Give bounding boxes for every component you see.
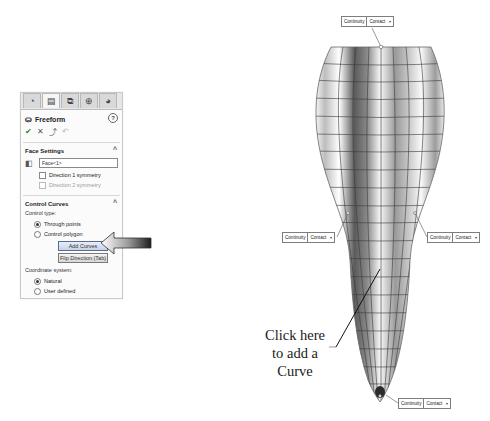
panel-actions: ✔ ✕ ⤴ ↶: [21, 126, 122, 137]
freeform-feature-icon: ⛀: [25, 115, 32, 124]
callout-left[interactable]: Continuity Contact ▾: [282, 232, 335, 243]
tab-dimxpert-manager[interactable]: ⊕: [80, 93, 98, 108]
radio-unselected[interactable]: [34, 231, 41, 238]
natural-radio[interactable]: Natural: [21, 276, 122, 286]
pushpin-icon[interactable]: ⤴: [49, 126, 57, 137]
annotation-line: to add a: [258, 344, 332, 362]
direction1-symmetry-checkbox[interactable]: Direction 1 symmetry: [21, 170, 122, 180]
collapse-caret-icon[interactable]: ^: [113, 199, 117, 206]
continuity-value: Contact: [426, 399, 442, 408]
face-selection-row: ◧ Face<1>: [21, 156, 122, 170]
radio-unselected[interactable]: [34, 288, 41, 295]
annotation-line: Curve: [258, 362, 332, 380]
continuity-label: Continuity: [399, 399, 424, 408]
continuity-value: Contact: [455, 233, 471, 242]
radio-label: Control polygon: [44, 231, 83, 237]
continuity-dropdown[interactable]: Contact ▾: [367, 17, 393, 26]
continuity-label: Continuity: [428, 233, 453, 242]
configuration-icon: ⧉: [67, 96, 73, 107]
undo-icon[interactable]: ↶: [62, 127, 69, 136]
tab-configuration-manager[interactable]: ⧉: [61, 93, 79, 108]
right-edge-handle[interactable]: [414, 212, 417, 215]
display-sphere-icon: ◕: [105, 96, 110, 106]
face-cube-icon: ◧: [25, 159, 34, 168]
chevron-down-icon: ▾: [446, 399, 448, 408]
cancel-x-icon[interactable]: ✕: [37, 127, 44, 136]
continuity-dropdown[interactable]: Contact ▾: [308, 233, 334, 242]
group-title: Control Curves: [25, 201, 68, 207]
control-type-label: Control type:: [21, 209, 122, 219]
crosshair-icon: ⊕: [85, 96, 93, 106]
click-here-annotation: Click here to add a Curve: [258, 326, 332, 380]
user-defined-radio[interactable]: User defined: [21, 286, 122, 296]
continuity-value: Contact: [369, 17, 385, 26]
radio-label: Natural: [44, 278, 62, 284]
panel-title: Freeform: [35, 116, 65, 123]
radio-selected[interactable]: [34, 221, 41, 228]
continuity-label: Continuity: [342, 17, 367, 26]
help-icon[interactable]: ?: [108, 113, 118, 123]
top-edge-handle[interactable]: [379, 45, 383, 49]
coordinate-system-label: Coordinate system:: [21, 266, 122, 276]
group-title: Face Settings: [25, 148, 64, 154]
tab-property-manager[interactable]: ▤: [42, 93, 60, 108]
checkbox-label: Direction 2 symmetry: [49, 182, 101, 188]
panel-header: ⛀ Freeform ?: [21, 110, 122, 126]
pointer-arrow-icon: [100, 231, 152, 255]
radio-selected[interactable]: [34, 278, 41, 285]
face-selection-box[interactable]: Face<1>: [39, 158, 118, 168]
continuity-dropdown[interactable]: Contact ▾: [424, 399, 450, 408]
direction2-symmetry-checkbox[interactable]: Direction 2 symmetry: [21, 180, 122, 190]
left-edge-handle[interactable]: [347, 212, 350, 215]
chevron-down-icon: ▾: [330, 233, 332, 242]
divider: [23, 142, 120, 143]
continuity-dropdown[interactable]: Contact ▾: [453, 233, 479, 242]
bottom-edge-handle[interactable]: [379, 395, 382, 398]
checkbox-label: Direction 1 symmetry: [49, 172, 101, 178]
divider: [23, 195, 120, 196]
collapse-caret-icon[interactable]: ^: [113, 146, 117, 153]
through-points-radio[interactable]: Through points: [21, 219, 122, 229]
annotation-line: Click here: [258, 326, 332, 344]
continuity-value: Contact: [310, 233, 326, 242]
callout-top[interactable]: Continuity Contact ▾: [341, 16, 394, 27]
control-curves-header[interactable]: Control Curves ^: [21, 199, 122, 209]
feature-tree-icon: ◔: [29, 96, 34, 106]
radio-label: Through points: [44, 221, 81, 227]
radio-label: User defined: [44, 288, 75, 294]
checkbox[interactable]: [39, 182, 46, 189]
face-settings-header[interactable]: Face Settings ^: [21, 146, 122, 156]
tab-display-manager[interactable]: ◕: [99, 93, 117, 108]
callout-right[interactable]: Continuity Contact ▾: [427, 232, 480, 243]
checkbox[interactable]: [39, 172, 46, 179]
property-list-icon: ▤: [47, 96, 56, 106]
freeform-property-manager: ◔ ▤ ⧉ ⊕ ◕ ⛀ Freeform ? ✔ ✕ ⤴ ↶ Face Sett…: [20, 92, 123, 299]
ok-check-icon[interactable]: ✔: [25, 127, 32, 136]
chevron-down-icon: ▾: [475, 233, 477, 242]
callout-bottom[interactable]: Continuity Contact ▾: [398, 398, 451, 409]
manager-tabs: ◔ ▤ ⧉ ⊕ ◕: [21, 93, 122, 110]
tab-feature-manager[interactable]: ◔: [23, 93, 41, 108]
chevron-down-icon: ▾: [389, 17, 391, 26]
continuity-label: Continuity: [283, 233, 308, 242]
